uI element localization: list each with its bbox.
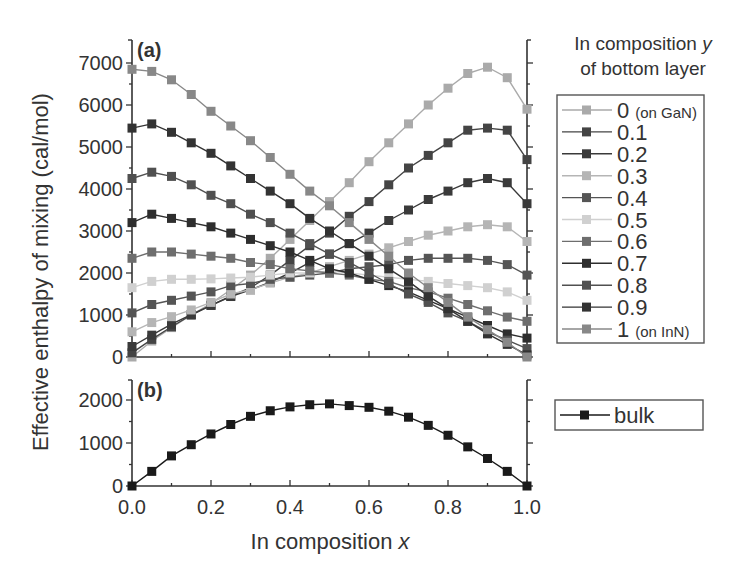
data-point-marker [187,292,196,301]
panel-a-y-tick-label: 3000 [79,220,124,242]
data-point-marker [246,136,255,145]
data-point-marker [187,90,196,99]
data-point-marker [424,283,433,292]
data-point-marker [463,69,472,78]
data-point-marker [128,124,137,133]
data-point-marker [226,199,235,208]
data-point-marker [523,317,532,326]
data-point-marker [147,119,156,128]
data-point-marker [167,451,176,460]
data-point-marker [404,269,413,278]
data-point-marker [167,128,176,137]
data-point-marker [503,467,512,476]
data-point-marker [424,101,433,110]
data-point-marker [266,153,275,162]
data-point-marker [463,222,472,231]
data-point-marker [246,273,255,282]
panel-a-y-tick-label: 5000 [79,136,124,158]
data-point-marker [305,239,314,248]
data-point-marker [147,168,156,177]
data-point-marker [523,296,532,305]
x-tick-label: 0.6 [355,496,383,518]
data-point-marker [483,454,492,463]
data-point-marker [503,73,512,82]
data-point-marker [444,298,453,307]
data-point-marker [187,250,196,259]
data-point-marker [147,331,156,340]
data-point-marker [424,421,433,430]
data-point-marker [384,264,393,273]
data-point-marker [128,283,137,292]
data-point-marker [167,172,176,181]
data-point-marker [345,178,354,187]
data-point-marker [523,155,532,164]
x-tick-label: 1.0 [513,496,541,518]
data-point-marker [444,431,453,440]
data-point-marker [325,264,334,273]
data-point-marker [384,252,393,261]
data-point-marker [404,413,413,422]
data-point-marker [207,149,216,158]
data-point-marker [187,138,196,147]
data-point-marker [128,327,137,336]
data-point-marker [365,157,374,166]
data-point-marker [404,277,413,286]
data-point-marker [483,174,492,183]
data-point-marker [266,271,275,280]
data-point-marker [503,178,512,187]
data-point-marker [424,292,433,301]
data-point-marker [384,279,393,288]
x-tick-label: 0.4 [276,496,304,518]
data-point-marker [463,178,472,187]
data-point-marker [483,63,492,72]
data-point-marker [187,275,196,284]
data-point-marker [365,269,374,278]
chart-figure: 010002000300040005000600070000100020000.… [0,0,732,581]
data-point-marker [147,248,156,257]
panel-b-y-tick-label: 0 [112,475,123,497]
data-point-marker [207,274,216,283]
data-point-marker [325,250,334,259]
data-point-marker [128,65,137,74]
data-point-marker [463,126,472,135]
x-tick-label: 0.8 [434,496,462,518]
data-point-marker [305,266,314,275]
legend-marker [582,215,591,224]
data-point-marker [444,187,453,196]
data-point-marker [404,290,413,299]
data-point-marker [167,312,176,321]
data-point-marker [147,318,156,327]
data-point-marker [207,287,216,296]
data-point-marker [246,235,255,244]
data-point-marker [147,210,156,219]
data-point-marker [345,239,354,248]
legend-marker [582,325,591,334]
legend-item-bulk: bulk [614,403,655,428]
data-point-marker [207,298,216,307]
legend-marker-bulk [580,411,589,420]
data-point-marker [345,269,354,278]
data-point-marker [128,342,137,351]
data-point-marker [305,214,314,223]
data-point-marker [503,313,512,322]
data-point-marker [503,222,512,231]
panel-a-y-tick-label: 4000 [79,178,124,200]
data-point-marker [365,403,374,412]
data-point-marker [523,353,532,362]
data-point-marker [226,254,235,263]
legend-marker [582,171,591,180]
panel-a-plot [128,63,532,362]
data-point-marker [207,107,216,116]
legend: 0(on GaN)0.10.20.30.40.50.60.70.80.91(on… [555,95,704,430]
data-point-marker [286,256,295,265]
data-point-marker [286,229,295,238]
data-point-marker [523,334,532,343]
y-axis-title: Effective enthalpy of mixing (cal/mol) [28,93,53,451]
panel-b-y-tick-label: 1000 [79,432,124,454]
data-point-marker [463,254,472,263]
data-point-marker [246,412,255,421]
data-point-marker [463,313,472,322]
data-point-marker [523,271,532,280]
data-point-marker [266,241,275,250]
data-point-marker [167,296,176,305]
